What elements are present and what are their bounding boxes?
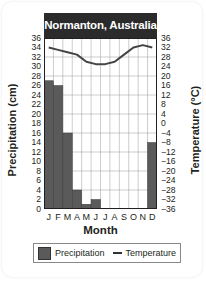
right-axis-tick: 24 <box>161 62 171 71</box>
precipitation-swatch-icon <box>38 247 51 260</box>
x-axis-tick: J <box>101 212 110 222</box>
right-axis-tick: 32 <box>161 43 171 52</box>
x-axis-tick: M <box>63 212 72 222</box>
right-axis-tick: −24 <box>161 176 176 185</box>
precipitation-bar <box>148 143 157 210</box>
legend: Precipitation Temperature <box>33 243 181 263</box>
x-axis-title: Month <box>44 224 157 236</box>
right-axis-tick: −28 <box>161 186 176 195</box>
left-axis-tick: 6 <box>36 176 41 185</box>
right-axis-tick: 0 <box>161 119 166 128</box>
x-axis-tick: J <box>91 212 100 222</box>
right-axis-tick: −36 <box>161 205 176 214</box>
chart-title: Normanton, Australia <box>44 13 157 38</box>
left-axis-tick: 14 <box>31 138 41 147</box>
left-axis-tick: 10 <box>31 157 41 166</box>
right-axis-tick: 36 <box>161 34 171 43</box>
left-axis-tick: 4 <box>36 186 41 195</box>
temperature-line-icon <box>113 252 122 254</box>
right-axis-tick: 20 <box>161 72 171 81</box>
right-axis-tick: 28 <box>161 53 171 62</box>
precipitation-bar <box>44 81 53 209</box>
legend-precipitation-label: Precipitation <box>55 248 105 258</box>
right-axis-tick: −4 <box>161 129 171 138</box>
x-axis-tick: J <box>44 212 53 222</box>
left-axis-tick: 28 <box>31 72 41 81</box>
right-axis-tick: −8 <box>161 138 171 147</box>
right-axis-ticks: 36322824201612840−4−8−12−16−20−24−28−32−… <box>160 0 190 281</box>
x-axis-tick: F <box>53 212 62 222</box>
left-axis-tick: 12 <box>31 148 41 157</box>
x-axis-tick: O <box>129 212 138 222</box>
right-axis-title: Temperature (°C) <box>189 75 201 185</box>
left-axis-tick: 34 <box>31 43 41 52</box>
precipitation-bar <box>91 200 100 210</box>
right-axis-tick: 16 <box>161 81 171 90</box>
x-axis-tick: A <box>72 212 81 222</box>
legend-temperature-label: Temperature <box>126 248 177 258</box>
plot-area <box>44 38 157 209</box>
left-axis-tick: 2 <box>36 195 41 204</box>
x-axis-tick: A <box>110 212 119 222</box>
x-axis-ticks: JFMAMJJASOND <box>44 212 157 224</box>
left-axis-tick: 16 <box>31 129 41 138</box>
left-axis-tick: 20 <box>31 110 41 119</box>
right-axis-tick: −12 <box>161 148 176 157</box>
left-axis-tick: 24 <box>31 91 41 100</box>
right-axis-tick: 8 <box>161 100 166 109</box>
right-axis-tick: 12 <box>161 91 171 100</box>
x-axis-tick: N <box>138 212 147 222</box>
right-axis-tick: −32 <box>161 195 176 204</box>
x-axis-tick: D <box>148 212 157 222</box>
precipitation-bar <box>63 133 72 209</box>
x-axis-tick: M <box>82 212 91 222</box>
left-axis-tick: 8 <box>36 167 41 176</box>
right-axis-tick: −20 <box>161 167 176 176</box>
left-axis-tick: 0 <box>36 205 41 214</box>
right-axis-tick: −16 <box>161 157 176 166</box>
left-axis-tick: 22 <box>31 100 41 109</box>
left-axis-tick: 36 <box>31 34 41 43</box>
precipitation-bar <box>53 86 62 210</box>
left-axis-tick: 30 <box>31 62 41 71</box>
left-axis-tick: 18 <box>31 119 41 128</box>
precipitation-bar <box>72 190 81 209</box>
x-axis-tick: S <box>119 212 128 222</box>
left-axis-tick: 32 <box>31 53 41 62</box>
right-axis-tick: 4 <box>161 110 166 119</box>
left-axis-title: Precipitation (cm) <box>6 75 18 185</box>
left-axis-tick: 26 <box>31 81 41 90</box>
